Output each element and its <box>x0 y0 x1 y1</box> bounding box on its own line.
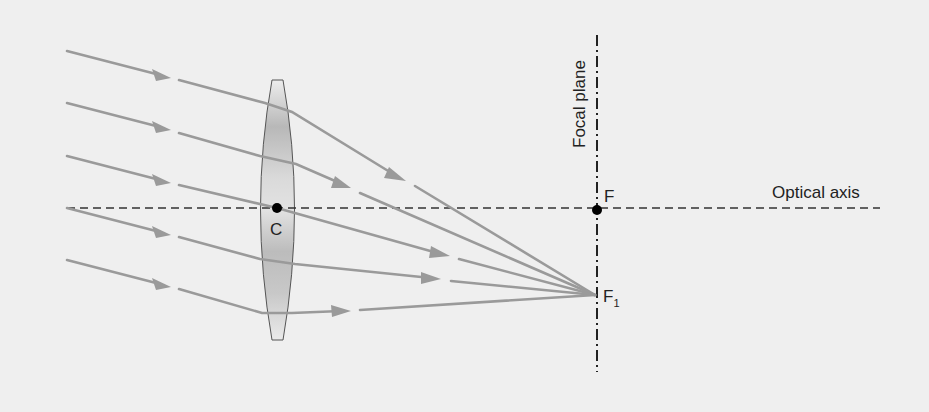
ray-3 <box>67 156 595 295</box>
arrow-icon <box>421 272 441 284</box>
optics-diagram: C F F1 Optical axis Focal plane <box>0 0 929 412</box>
lens-center-label: C <box>270 220 282 239</box>
focal-point <box>592 205 602 215</box>
arrow-icon <box>152 278 171 290</box>
optical-axis-label: Optical axis <box>772 183 860 202</box>
arrow-icon <box>429 246 450 258</box>
ray-2 <box>67 103 595 295</box>
ray-arrowheads <box>152 69 450 317</box>
focal-plane-label: Focal plane <box>570 60 589 148</box>
ray-1 <box>67 51 595 295</box>
rays <box>67 51 595 313</box>
arrow-icon <box>152 69 171 81</box>
off-axis-focus-label: F1 <box>603 287 620 309</box>
arrow-icon <box>152 174 171 186</box>
focal-point-label: F <box>604 187 614 206</box>
arrow-icon <box>152 226 171 238</box>
off-axis-focus-subscript: 1 <box>613 297 619 309</box>
ray-4 <box>67 208 595 295</box>
arrow-icon <box>331 176 351 188</box>
diagram-canvas: C F F1 Optical axis Focal plane <box>0 0 929 412</box>
lens-center-point <box>272 203 282 213</box>
arrow-icon <box>331 305 351 317</box>
arrow-icon <box>152 121 171 133</box>
